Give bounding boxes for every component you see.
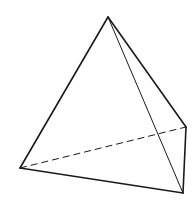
background: [0, 0, 194, 209]
tetrahedron-diagram: [0, 0, 194, 209]
